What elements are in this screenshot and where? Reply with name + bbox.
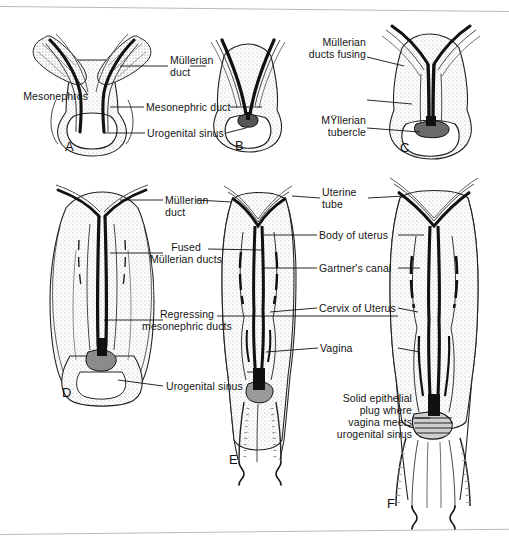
- panel-c-drawing: [382, 26, 480, 159]
- label-cervix-of-uterus: Cervix of Uterus: [319, 302, 396, 314]
- panel-letter-d: D: [62, 385, 71, 400]
- label-mullerian-duct-d: Müllerian duct: [165, 194, 225, 218]
- label-solid-epithelial-plug: Solid epithelial plug where vagina meets…: [316, 392, 412, 440]
- label-uterine-tube: Uterine tube: [322, 186, 372, 210]
- panel-letter-f: F: [387, 496, 395, 511]
- figure-canvas: Mesonephros Müllerian duct Mesonephric d…: [0, 0, 509, 540]
- panel-d-drawing: [50, 185, 154, 406]
- anatomy-drawings: [0, 0, 509, 540]
- label-mesonephros: Mesonephros: [0, 90, 88, 102]
- label-mullerian-ducts-fusing: Müllerian ducts fusing: [270, 36, 366, 60]
- panel-letter-c: C: [400, 140, 409, 155]
- panel-e-drawing: [222, 186, 296, 485]
- label-mesonephric-duct-a: Mesonephric duct: [146, 101, 230, 113]
- label-urogenital-sinus-a: Urogenital sinus: [147, 127, 224, 139]
- label-regressing-mesonephric-ducts: Regressing mesonephric ducts: [137, 308, 237, 332]
- label-vagina: Vagina: [320, 342, 353, 354]
- label-urogenital-sinus-d: Urogenital sinus: [166, 380, 243, 392]
- label-fused-mullerian-ducts: Fused Müllerian ducts: [140, 241, 232, 265]
- panel-letter-e: E: [229, 452, 238, 467]
- label-gartners-canal: Gartner's canal: [319, 262, 391, 274]
- label-mullerian-tubercle: MŸllerian tubercle: [270, 114, 366, 138]
- label-mullerian-duct-a: Müllerian duct: [170, 54, 230, 78]
- panel-letter-b: B: [235, 138, 244, 153]
- panel-letter-a: A: [65, 139, 74, 154]
- panel-f-drawing: [390, 178, 478, 529]
- label-body-of-uterus: Body of uterus: [319, 229, 388, 241]
